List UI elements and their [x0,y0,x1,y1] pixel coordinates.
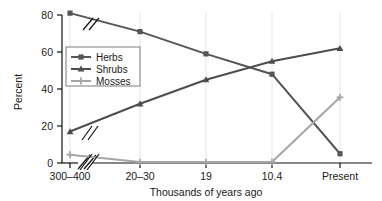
shrubs-break-icon [82,126,98,140]
series-break-marks [80,18,99,170]
legend-label-herbs: Herbs [96,52,123,63]
legend-label-shrubs: Shrubs [96,64,128,75]
x-tick-label-2: 20–30 [125,170,154,182]
y-tick-label-0: 0 [47,157,53,169]
line-chart: 80 60 40 20 0 Percent 300–400 20–30 19 1… [0,0,382,201]
square-marker[interactable] [78,54,83,59]
datapoint-herbs-3[interactable] [269,72,274,77]
x-axis-title: Thousands of years ago [150,186,263,198]
datapoint-herbs-2[interactable] [203,51,208,56]
y-tick-label-20: 20 [41,120,53,132]
chart-container: 80 60 40 20 0 Percent 300–400 20–30 19 1… [0,0,382,201]
gridlines [70,12,340,163]
datapoint-herbs-0[interactable] [67,11,72,16]
datapoint-mosses-2[interactable] [203,159,210,166]
series-layer [67,11,344,166]
chart-legend[interactable]: HerbsShrubsMosses [66,47,140,87]
x-tick-label-1: 300–400 [50,170,91,182]
y-axis-title: Percent [12,74,24,110]
x-axis [62,163,372,168]
datapoint-mosses-0[interactable] [67,151,74,158]
x-tick-label-4: 10.4 [262,170,283,182]
series-mosses [67,94,344,166]
legend-label-mosses: Mosses [96,76,130,87]
datapoint-mosses-1[interactable] [137,159,144,166]
x-tick-label-5: Present [322,170,358,182]
datapoint-herbs-1[interactable] [137,29,142,34]
x-tick-label-3: 19 [200,170,212,182]
y-axis [57,15,62,163]
y-tick-label-40: 40 [41,83,53,95]
y-tick-label-60: 60 [41,46,53,58]
datapoint-herbs-4[interactable] [337,151,342,156]
y-tick-label-80: 80 [41,9,53,21]
